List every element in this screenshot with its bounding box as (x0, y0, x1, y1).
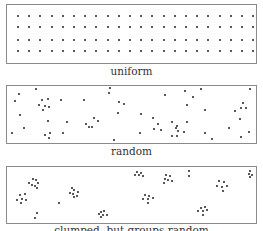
uniform-dot (252, 39, 254, 41)
clumped-dot (76, 195, 78, 197)
clumped-dot (98, 213, 100, 215)
random-dot (240, 107, 242, 109)
random-dot (35, 88, 37, 90)
random-dot (14, 100, 16, 102)
clumped-dot (142, 198, 144, 200)
uniform-dot (62, 15, 64, 17)
clumped-dot (148, 195, 150, 197)
random-dot (186, 121, 188, 123)
random-dot (91, 126, 93, 128)
uniform-dot (28, 26, 30, 28)
clumped-dot (188, 175, 190, 177)
clumped-dot (165, 174, 167, 176)
uniform-dot (241, 26, 243, 28)
uniform-dot (252, 26, 254, 28)
random-dot (44, 134, 46, 136)
uniform-dot (28, 15, 30, 17)
clumped-dot (144, 194, 146, 196)
uniform-dot (163, 50, 165, 52)
uniform-dot (151, 50, 153, 52)
clumped-dot (21, 198, 23, 200)
uniform-dot (17, 15, 19, 17)
clumped-dot (20, 202, 22, 204)
uniform-dot (73, 39, 75, 41)
uniform-dot (241, 39, 243, 41)
uniform-dot (73, 15, 75, 17)
clumped-dot (69, 192, 71, 194)
clumped-dot (147, 202, 149, 204)
random-dot (200, 88, 202, 90)
uniform-dot (118, 39, 120, 41)
random-dot (66, 121, 68, 123)
uniform-dot (151, 39, 153, 41)
clumped-dot (142, 175, 144, 177)
uniform-dot (207, 15, 209, 17)
random-dot (47, 120, 49, 122)
random-dot (164, 94, 166, 96)
uniform-dot (95, 39, 97, 41)
clumped-dot (248, 173, 250, 175)
uniform-dot (151, 26, 153, 28)
uniform-dot (28, 50, 30, 52)
uniform-dot (39, 50, 41, 52)
uniform-dot (84, 15, 86, 17)
clumped-dot (34, 217, 36, 219)
uniform-dot (62, 50, 64, 52)
clumped-dot (138, 174, 140, 176)
random-dot (23, 127, 25, 129)
caption-clumped: clumped, but groups random (0, 224, 263, 231)
random-dot (152, 117, 154, 119)
uniform-dot (185, 15, 187, 17)
clumped-dot (169, 175, 171, 177)
random-dot (38, 104, 40, 106)
random-dot (245, 107, 247, 109)
clumped-dot (197, 210, 199, 212)
caption-uniform: uniform (0, 65, 263, 77)
clumped-dot (19, 194, 21, 196)
uniform-dot (252, 15, 254, 17)
uniform-dot (196, 26, 198, 28)
clumped-dot (171, 180, 173, 182)
random-dot (108, 92, 110, 94)
uniform-dot (185, 50, 187, 52)
uniform-dot (219, 15, 221, 17)
clumped-dot (218, 180, 220, 182)
uniform-dot (196, 50, 198, 52)
clumped-dot (136, 171, 138, 173)
random-dot (62, 132, 64, 134)
uniform-dot (241, 15, 243, 17)
random-dot (171, 121, 173, 123)
uniform-dot (230, 15, 232, 17)
uniform-dot (196, 39, 198, 41)
clumped-dot (140, 172, 142, 174)
clumped-dot (204, 206, 206, 208)
random-dot (97, 120, 99, 122)
clumped-dot (31, 184, 33, 186)
caption-random: random (0, 145, 263, 157)
clumped-dot (164, 178, 166, 180)
random-dot (60, 99, 62, 101)
clumped-dot (163, 182, 165, 184)
random-dot (113, 139, 115, 141)
random-dot (176, 125, 178, 127)
clumped-dot (106, 214, 108, 216)
uniform-dot (95, 15, 97, 17)
uniform-dot (62, 26, 64, 28)
uniform-dot (51, 39, 53, 41)
clumped-dot (36, 212, 38, 214)
random-dot (140, 113, 142, 115)
random-dot (239, 118, 241, 120)
clumped-dot (152, 197, 154, 199)
random-dot (44, 105, 46, 107)
clumped-dot (202, 214, 204, 216)
uniform-dot (230, 26, 232, 28)
uniform-dot (219, 50, 221, 52)
clumped-dot (16, 199, 18, 201)
uniform-dot (39, 26, 41, 28)
clumped-dot (32, 178, 34, 180)
uniform-dot (207, 39, 209, 41)
clumped-dot (24, 193, 26, 195)
random-dot (157, 123, 159, 125)
random-dot (171, 135, 173, 137)
clumped-dot (102, 214, 104, 216)
